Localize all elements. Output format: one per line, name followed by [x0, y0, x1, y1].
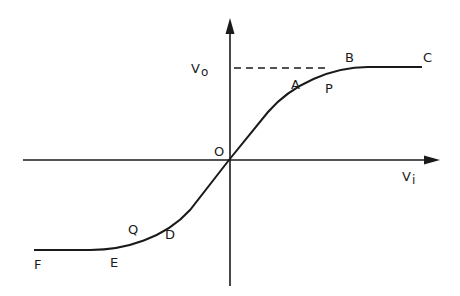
point-label-p: P	[325, 82, 333, 95]
x-axis-label: Vi	[402, 170, 415, 183]
y-axis-label: Vo	[191, 62, 208, 75]
transfer-curve	[34, 67, 422, 250]
y-axis-label-sub: o	[201, 65, 208, 79]
x-axis-arrowhead-icon	[424, 156, 440, 165]
y-axis-label-main: V	[191, 61, 200, 76]
point-label-c: C	[423, 51, 432, 64]
point-label-b: B	[345, 51, 354, 64]
y-axis-arrowhead-icon	[226, 18, 235, 34]
point-label-e: E	[110, 256, 118, 269]
x-axis-label-main: V	[402, 169, 411, 184]
transfer-curve-diagram	[0, 0, 460, 296]
x-axis-label-sub: i	[412, 173, 415, 187]
point-label-q: Q	[128, 223, 138, 236]
point-label-a: A	[291, 78, 300, 91]
origin-label: O	[214, 145, 224, 158]
point-label-f: F	[34, 258, 41, 271]
point-label-d: D	[165, 228, 175, 241]
